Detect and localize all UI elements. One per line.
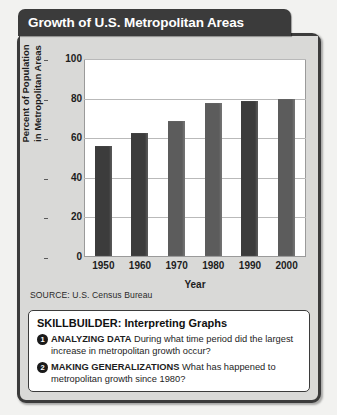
skillbuilder-item-text: MAKING GENERALIZATIONS What has happened… [51, 361, 301, 386]
skillbuilder-item-text: ANALYZING DATA During what time period d… [51, 333, 301, 358]
skillbuilder-box: SKILLBUILDER: Interpreting Graphs 1ANALY… [28, 310, 310, 392]
skillbuilder-item-number: 1 [37, 334, 48, 345]
y-axis-tick-mark [44, 60, 48, 61]
figure-root: Growth of U.S. Metropolitan Areas Percen… [0, 0, 337, 415]
y-axis-tick-mark [44, 218, 48, 219]
y-axis-tick-mark [44, 100, 48, 101]
skillbuilder-items: 1ANALYZING DATA During what time period … [37, 333, 301, 386]
y-axis-tick-label: 40 [48, 172, 82, 183]
page-title: Growth of U.S. Metropolitan Areas [18, 15, 244, 30]
figure-card: Percent of Population in Metropolitan Ar… [17, 33, 321, 403]
y-axis-tick-mark [44, 139, 48, 140]
skillbuilder-item: 1ANALYZING DATA During what time period … [37, 333, 301, 358]
y-axis-tick-mark [44, 258, 48, 259]
bar [168, 121, 185, 256]
bar [241, 101, 258, 256]
x-axis-tick-label: 1980 [196, 260, 230, 271]
bar [278, 99, 295, 256]
bar [131, 133, 148, 256]
figure-title-tab: Growth of U.S. Metropolitan Areas [18, 9, 291, 36]
plot-wrapper: 100806040200 195019601970198019902000 [84, 59, 306, 257]
x-axis-tick-label: 1950 [86, 260, 120, 271]
skillbuilder-item: 2MAKING GENERALIZATIONS What has happene… [37, 361, 301, 386]
x-axis-ticks: 195019601970198019902000 [85, 260, 305, 271]
y-axis-tick-label: 20 [48, 211, 82, 222]
y-axis-title-line2: in Metropolitan Areas [31, 36, 43, 152]
y-axis-title: Percent of Population in Metropolitan Ar… [20, 36, 43, 152]
x-axis-tick-label: 1960 [123, 260, 157, 271]
y-axis-tick-label: 0 [48, 251, 82, 262]
bar [205, 103, 222, 256]
source-note: SOURCE: U.S. Census Bureau [30, 290, 152, 300]
skillbuilder-title: SKILLBUILDER: Interpreting Graphs [37, 317, 301, 329]
y-axis-tick-mark [44, 179, 48, 180]
chart-panel: Percent of Population in Metropolitan Ar… [20, 36, 318, 306]
y-axis-title-line1: Percent of Population [20, 36, 32, 152]
x-axis-tick-label: 2000 [270, 260, 304, 271]
x-axis-tick-label: 1970 [160, 260, 194, 271]
skillbuilder-item-number: 2 [37, 362, 48, 373]
y-axis-tick-label: 80 [48, 93, 82, 104]
y-axis-tick-label: 100 [48, 53, 82, 64]
bar-series [85, 60, 305, 256]
x-axis-title: Year [84, 279, 306, 290]
y-axis-tick-label: 60 [48, 132, 82, 143]
x-axis-tick-label: 1990 [233, 260, 267, 271]
bar [95, 146, 112, 256]
skillbuilder-item-label: ANALYZING DATA [51, 334, 131, 344]
skillbuilder-item-label: MAKING GENERALIZATIONS [51, 362, 179, 372]
